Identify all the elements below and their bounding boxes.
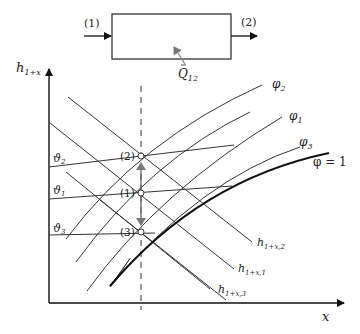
state-label-3: (3) [120, 226, 135, 238]
process-schematic: (1) (2) Q12 [84, 14, 257, 83]
h2-label: h1+x,2 [257, 236, 286, 251]
phi1-label: φ1 [289, 109, 303, 125]
psychrometric-diagram: (1) (2) Q12 h1+x x [0, 0, 360, 334]
theta2-label: ϑ2 [53, 152, 66, 166]
heat-arrow-icon [174, 47, 185, 64]
inlet-label: (1) [84, 17, 100, 30]
isotherm-labels: ϑ2 ϑ1 ϑ3 [53, 152, 66, 236]
saturation-curve [110, 153, 329, 286]
h1-label: h1+x,1 [238, 262, 266, 277]
state-point-3 [138, 229, 144, 235]
phi1-curve [87, 117, 282, 291]
state-point-1 [138, 190, 144, 196]
h3-label: h1+x,3 [218, 283, 247, 298]
phi-extra-curve [66, 85, 262, 239]
enthalpy-labels: h1+x,2 h1+x,1 h1+x,3 [218, 236, 286, 298]
heat-label: Q12 [178, 67, 198, 83]
phi3-curve [110, 147, 300, 287]
state-point-2 [138, 153, 144, 159]
y-axis-label: h1+x [16, 60, 41, 77]
phi3-label: φ3 [299, 135, 313, 151]
enthalpy-line-extra [100, 200, 226, 300]
outlet-label: (2) [241, 16, 257, 29]
humidity-curves [66, 85, 300, 291]
x-axis-label: x [322, 309, 330, 324]
saturation-label: φ = 1 [313, 155, 347, 169]
humidity-labels: φ2 φ1 φ3 φ = 1 [272, 77, 347, 169]
state-label-2: (2) [120, 150, 135, 162]
theta1-label: ϑ1 [53, 184, 65, 198]
theta3-label: ϑ3 [53, 222, 66, 236]
enthalpy-line-2 [68, 97, 252, 242]
process-box [112, 14, 231, 59]
phi2-label: φ2 [272, 77, 286, 93]
state-label-1: (1) [120, 187, 135, 199]
